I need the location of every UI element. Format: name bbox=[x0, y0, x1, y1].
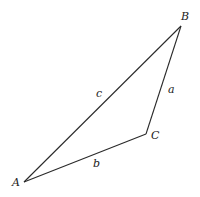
triangle-diagram: A B C a b c bbox=[0, 0, 200, 197]
vertex-label-c: C bbox=[151, 129, 160, 142]
side-c bbox=[24, 26, 181, 182]
side-b bbox=[24, 134, 146, 182]
side-a bbox=[146, 26, 181, 134]
side-label-c: c bbox=[96, 87, 102, 100]
vertex-label-a: A bbox=[11, 176, 20, 189]
side-label-b: b bbox=[93, 157, 100, 170]
side-label-a: a bbox=[168, 83, 175, 96]
vertex-label-b: B bbox=[180, 10, 189, 23]
